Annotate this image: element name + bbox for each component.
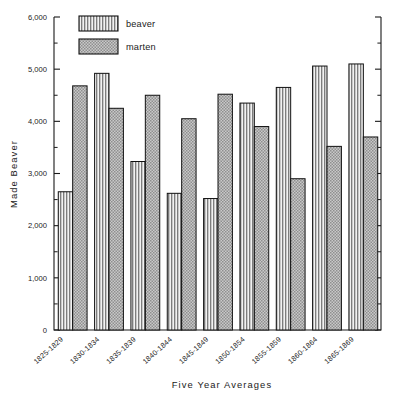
bar-marten [109, 108, 123, 330]
y-tick-label: 3,000 [28, 169, 47, 178]
bar-beaver [349, 64, 363, 330]
bar-beaver [58, 192, 72, 330]
x-tick-label: 1840-1844 [141, 335, 174, 366]
x-tick-label: 1825-1829 [32, 335, 65, 366]
bar-beaver [240, 103, 254, 330]
x-tick-label: 1860-1864 [286, 335, 319, 366]
bar-marten [254, 127, 268, 330]
bar-beaver [313, 66, 327, 330]
y-tick-label: 5,000 [28, 65, 47, 74]
legend-label-beaver: beaver [126, 19, 155, 29]
x-tick-label: 1835-1839 [104, 335, 137, 366]
x-tick-label: 1845-1849 [177, 335, 210, 366]
y-axis-tick-labels: 01,0002,0003,0004,0005,0006,000 [28, 13, 47, 335]
legend-swatch-beaver [79, 16, 118, 31]
bar-beaver [276, 87, 290, 330]
y-tick-label: 6,000 [28, 13, 47, 22]
x-axis-tick-labels: 1825-18291830-18341835-18391840-18441845… [32, 335, 356, 366]
bar-marten [218, 94, 232, 330]
bar-marten [363, 137, 377, 330]
y-axis-title: Made Beaver [8, 140, 19, 208]
bar-marten [182, 119, 196, 330]
bar-marten [73, 86, 87, 330]
bar-marten [145, 95, 159, 330]
x-tick-label: 1855-1859 [250, 335, 283, 366]
chart-svg: 01,0002,0003,0004,0005,0006,000 1825-182… [0, 0, 400, 395]
legend-label-marten: marten [126, 42, 156, 52]
y-tick-label: 0 [43, 326, 47, 335]
x-axis-title: Five Year Averages [172, 379, 272, 390]
bar-beaver [204, 199, 218, 330]
bar-beaver [131, 162, 145, 331]
bar-beaver [95, 73, 109, 330]
x-tick-label: 1865-1869 [322, 335, 355, 366]
y-tick-label: 2,000 [28, 221, 47, 230]
bar-marten [327, 146, 341, 330]
x-tick-label: 1830-1834 [68, 335, 101, 366]
bar-beaver [167, 193, 181, 330]
bar-marten [291, 179, 305, 330]
y-tick-label: 1,000 [28, 274, 47, 283]
bar-chart: 01,0002,0003,0004,0005,0006,000 1825-182… [0, 0, 400, 395]
x-tick-label: 1850-1854 [213, 335, 246, 366]
bars-layer [58, 64, 377, 330]
chart-legend: beaver marten [79, 16, 156, 54]
legend-swatch-marten [79, 39, 118, 54]
y-tick-label: 4,000 [28, 117, 47, 126]
